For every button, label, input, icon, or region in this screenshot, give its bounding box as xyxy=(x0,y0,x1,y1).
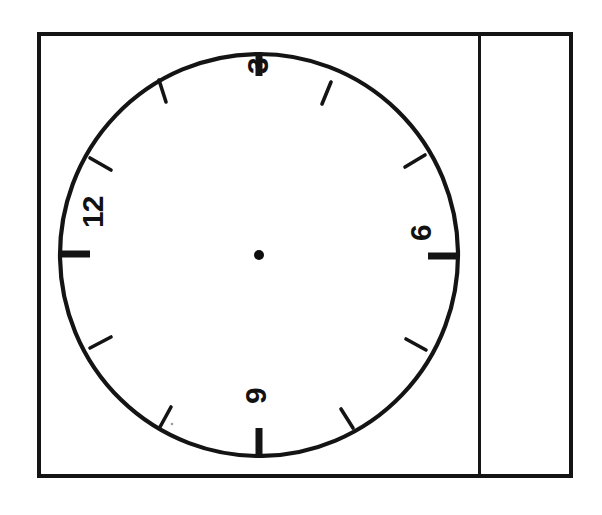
minor-tick-8 xyxy=(90,158,111,170)
minor-tick-5 xyxy=(341,409,353,428)
minor-tick-3 xyxy=(405,155,425,167)
minor-tick-1 xyxy=(159,80,166,102)
clock-drawing-page: 12 3 6 9 xyxy=(0,0,602,515)
clock-numeral-3: 3 xyxy=(243,58,273,74)
clock-numeral-9: 9 xyxy=(241,388,271,404)
minor-tick-6 xyxy=(160,407,171,427)
clock-numeral-6: 6 xyxy=(406,225,436,241)
clock-drawing-svg xyxy=(0,0,602,515)
clock-numeral-12: 12 xyxy=(78,197,108,228)
minor-tick-4 xyxy=(406,339,426,350)
minor-tick-2 xyxy=(322,82,331,104)
clock-face: 12 3 6 9 xyxy=(0,0,602,515)
clock-center-dot xyxy=(254,250,264,260)
minor-tick-7 xyxy=(90,337,111,348)
stray-mark xyxy=(171,423,174,426)
